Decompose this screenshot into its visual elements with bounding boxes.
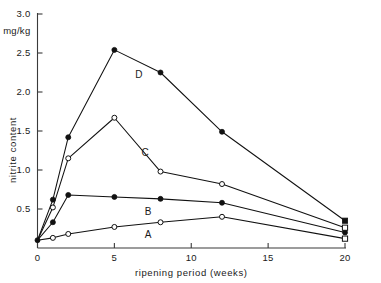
data-point — [220, 182, 225, 187]
data-point — [112, 47, 117, 52]
x-tick-label: 15 — [263, 252, 274, 263]
data-point — [342, 225, 347, 230]
y-tick-label: 1.5 — [16, 125, 30, 136]
y-tick-label: 2.5 — [16, 47, 30, 58]
x-tick-label: 20 — [339, 252, 350, 263]
series-a — [38, 214, 348, 241]
data-point — [220, 200, 225, 205]
x-axis-title: ripening period (weeks) — [135, 267, 248, 278]
data-point — [112, 194, 117, 199]
series-line-a — [38, 217, 346, 240]
data-point — [50, 197, 55, 202]
data-point-origin — [35, 238, 40, 243]
y-tick-label: 2.0 — [16, 86, 30, 97]
data-series — [35, 47, 348, 242]
chart-canvas: 0.51.01.52.02.53.005101520 nitrite conte… — [0, 0, 381, 283]
y-tick-label: 0.5 — [16, 203, 30, 214]
data-point — [50, 220, 55, 225]
series-b — [38, 192, 348, 240]
series-label-c: C — [142, 147, 149, 158]
series-label-d: D — [135, 69, 142, 80]
x-tick-label: 10 — [186, 252, 197, 263]
y-tick-label: 3.0 — [16, 8, 30, 19]
y-tick-label: 1.0 — [16, 164, 30, 175]
figure-nitrite-content-chart: 0.51.01.52.02.53.005101520 nitrite conte… — [0, 0, 381, 283]
series-line-b — [38, 195, 346, 240]
x-tick-label: 0 — [35, 252, 41, 263]
data-point — [112, 115, 117, 120]
data-point — [66, 135, 71, 140]
x-tick-label: 5 — [112, 252, 118, 263]
data-point — [158, 220, 163, 225]
series-label-a: A — [145, 229, 152, 240]
data-point — [220, 129, 225, 134]
y-axis-title: nitrite content — [7, 117, 18, 183]
data-point — [158, 70, 163, 75]
data-point — [342, 236, 347, 241]
data-point — [66, 192, 71, 197]
series-label-b: B — [145, 206, 152, 217]
data-point — [342, 218, 347, 223]
y-axis-unit-label: mg/kg — [3, 25, 30, 36]
data-point — [66, 231, 71, 236]
data-point — [220, 214, 225, 219]
data-point — [50, 235, 55, 240]
data-point — [66, 156, 71, 161]
series-line-c — [38, 118, 346, 240]
data-point — [112, 224, 117, 229]
data-point — [158, 196, 163, 201]
data-point — [158, 169, 163, 174]
